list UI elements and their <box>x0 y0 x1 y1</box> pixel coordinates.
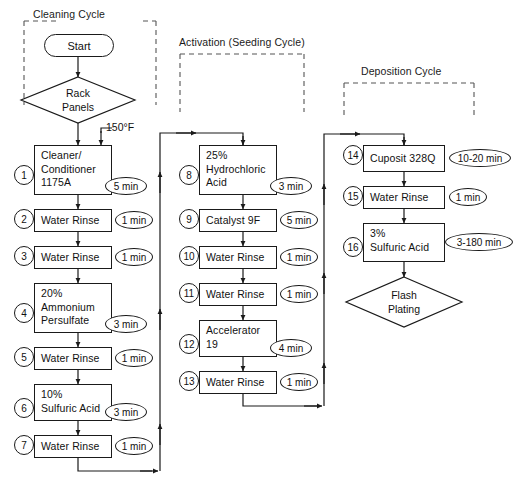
terminator-start: Start <box>44 34 114 57</box>
step-2-line-1: Water Rinse <box>41 214 99 228</box>
step-time-10: 1 min <box>280 248 318 266</box>
step-number-7: 7 <box>14 435 34 455</box>
step-time-5: 1 min <box>115 349 153 367</box>
decision-flash-plating: Flash Plating <box>374 288 434 316</box>
step-12-line-1: Accelerator <box>206 324 276 338</box>
step-box-15: Water Rinse <box>363 186 445 209</box>
annotation-temperature-150f: 150°F <box>106 121 134 133</box>
step-4-line-1: 20% <box>41 287 111 301</box>
step-14-line-1: Cuposit 328Q <box>370 152 435 166</box>
step-time-16: 3-180 min <box>445 233 513 251</box>
step-box-5: Water Rinse <box>34 347 112 370</box>
step-13-line-1: Water Rinse <box>206 376 264 390</box>
step-number-16: 16 <box>343 237 363 257</box>
step-box-10: Water Rinse <box>199 246 277 269</box>
step-time-13: 1 min <box>280 373 318 391</box>
step-6-line-2: Sulfuric Acid <box>41 402 111 416</box>
group-label-activation-cycle: Activation (Seeding Cycle) <box>179 36 305 48</box>
step-number-4: 4 <box>14 303 34 323</box>
step-time-4: 3 min <box>105 315 147 333</box>
step-6-line-1: 10% <box>41 388 111 402</box>
group-label-deposition-cycle: Deposition Cycle <box>361 65 441 77</box>
step-11-line-1: Water Rinse <box>206 288 264 302</box>
step-8-line-1: 25% <box>206 149 276 163</box>
step-box-3: Water Rinse <box>34 246 112 269</box>
step-box-7: Water Rinse <box>34 435 112 458</box>
step-box-14: Cuposit 328Q <box>363 145 445 172</box>
step-8-line-3: Acid <box>206 176 276 190</box>
step-1-line-3: 1175A <box>41 176 111 190</box>
step-time-9: 5 min <box>280 211 318 229</box>
step-number-2: 2 <box>14 209 34 229</box>
step-8-line-2: Hydrochloric <box>206 163 276 177</box>
step-box-16: 3% Sulfuric Acid <box>363 223 445 262</box>
step-12-line-2: 19 <box>206 338 276 352</box>
step-time-6: 3 min <box>105 403 147 421</box>
step-number-1: 1 <box>14 165 34 185</box>
step-number-11: 11 <box>179 283 199 303</box>
step-number-12: 12 <box>179 334 199 354</box>
step-box-6: 10% Sulfuric Acid <box>34 384 112 421</box>
step-number-13: 13 <box>179 371 199 391</box>
step-7-line-1: Water Rinse <box>41 440 99 454</box>
step-time-12: 4 min <box>270 339 312 357</box>
step-time-3: 1 min <box>115 248 153 266</box>
step-box-2: Water Rinse <box>34 209 112 232</box>
group-label-cleaning-cycle: Cleaning Cycle <box>33 8 105 20</box>
step-10-line-1: Water Rinse <box>206 251 264 265</box>
step-box-1: Cleaner/ Conditioner 1175A <box>34 145 112 195</box>
step-box-8: 25% Hydrochloric Acid <box>199 145 277 195</box>
step-box-9: Catalyst 9F <box>199 209 277 232</box>
step-time-1: 5 min <box>105 177 147 195</box>
step-time-11: 1 min <box>280 285 318 303</box>
step-number-6: 6 <box>14 398 34 418</box>
decision-rack-panels-line1: Rack <box>48 86 108 100</box>
step-number-15: 15 <box>343 186 363 206</box>
step-time-14: 10-20 min <box>449 149 511 167</box>
step-box-11: Water Rinse <box>199 283 277 306</box>
decision-flash-plating-line1: Flash <box>374 288 434 302</box>
flowchart-canvas: Cleaning Cycle Activation (Seeding Cycle… <box>0 0 521 484</box>
step-4-line-2: Ammonium <box>41 301 111 315</box>
step-number-3: 3 <box>14 246 34 266</box>
step-5-line-1: Water Rinse <box>41 352 99 366</box>
decision-flash-plating-line2: Plating <box>374 302 434 316</box>
step-9-line-1: Catalyst 9F <box>206 214 260 228</box>
step-number-5: 5 <box>14 347 34 367</box>
decision-rack-panels-line2: Panels <box>48 100 108 114</box>
step-box-4: 20% Ammonium Persulfate <box>34 283 112 333</box>
step-number-9: 9 <box>179 209 199 229</box>
step-number-8: 8 <box>179 165 199 185</box>
step-time-2: 1 min <box>115 211 153 229</box>
step-box-12: Accelerator 19 <box>199 320 277 357</box>
step-box-13: Water Rinse <box>199 371 277 394</box>
decision-rack-panels: Rack Panels <box>48 86 108 114</box>
step-1-line-2: Conditioner <box>41 163 111 177</box>
step-time-8: 3 min <box>270 177 312 195</box>
step-16-line-1: 3% <box>370 227 444 241</box>
step-1-line-1: Cleaner/ <box>41 149 111 163</box>
step-time-7: 1 min <box>115 437 153 455</box>
step-time-15: 1 min <box>449 188 487 206</box>
step-16-line-2: Sulfuric Acid <box>370 241 444 255</box>
step-3-line-1: Water Rinse <box>41 251 99 265</box>
step-15-line-1: Water Rinse <box>370 191 428 205</box>
step-number-14: 14 <box>343 145 363 165</box>
step-4-line-3: Persulfate <box>41 314 111 328</box>
step-number-10: 10 <box>179 246 199 266</box>
